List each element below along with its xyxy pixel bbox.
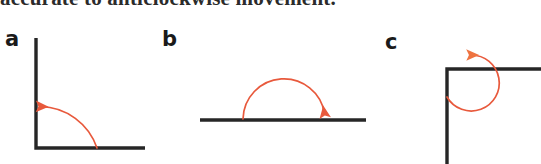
panel-c-angle-arms (447, 69, 541, 164)
panel-a-angle-arms (36, 38, 145, 148)
angle-diagrams-svg (0, 0, 541, 164)
panel-c-rotation-arc (447, 55, 499, 111)
panel-c-group (447, 55, 541, 164)
panel-a-rotation-arc (41, 107, 98, 149)
panel-a-group (36, 38, 145, 148)
panel-b-rotation-arc (243, 79, 325, 119)
panel-b-group (200, 79, 366, 120)
figure-canvas: accurate to anticlockwise movement. a b … (0, 0, 541, 164)
